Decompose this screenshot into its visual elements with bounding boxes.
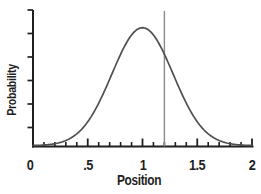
x-tick-label-.5: .5 (83, 156, 93, 173)
y-axis-label: Probability (4, 64, 19, 115)
x-axis-label: Position (117, 172, 161, 188)
x-tick-label-1.5: 1.5 (189, 156, 205, 173)
plot-canvas (0, 0, 261, 194)
x-tick-label-2: 2 (249, 156, 256, 173)
x-tick-label-0: 0 (27, 156, 34, 173)
x-tick-label-1: 1 (139, 156, 146, 173)
normal-distribution-curve (33, 28, 252, 146)
probability-distribution-chart: Probability Position 0.511.52 (0, 0, 261, 194)
